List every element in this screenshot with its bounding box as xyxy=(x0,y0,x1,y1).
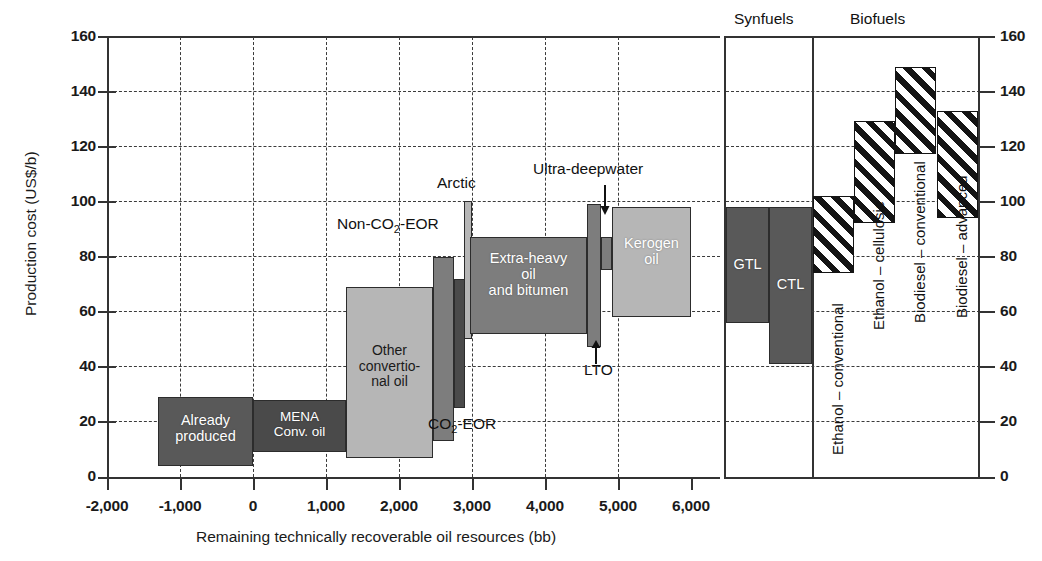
annotation-non-co2-eor-suffix: -EOR xyxy=(400,215,439,232)
gridline-h-right xyxy=(726,366,980,367)
bar-label-ctl: CTL xyxy=(769,276,812,292)
gridline-h xyxy=(109,91,720,92)
annotation-arctic: Arctic xyxy=(437,174,476,192)
x-tick-mark xyxy=(107,477,109,490)
y-axis-title: Production cost (US$/b) xyxy=(22,151,40,316)
y-tick-40: 40 xyxy=(44,357,96,375)
y-tick-mark-right xyxy=(978,311,995,313)
bar-lto[interactable] xyxy=(587,204,601,347)
y-tick-mark-right xyxy=(978,146,995,148)
x-tick-mark xyxy=(399,477,401,490)
bar-ethanol-conventional[interactable] xyxy=(813,196,854,273)
x-tick-mark xyxy=(618,477,620,490)
x-tick-mark xyxy=(691,477,693,490)
y-tick-100: 100 xyxy=(44,192,96,210)
gridline-h-right xyxy=(726,91,980,92)
annotation-non-co2-eor-text: Non-CO xyxy=(337,215,394,232)
y-tick-right-80: 80 xyxy=(1000,247,1042,265)
gridline-h xyxy=(109,201,720,202)
x-tick-mark xyxy=(326,477,328,490)
bar-biodiesel-conventional[interactable] xyxy=(895,67,936,154)
bar-non-co2-eor[interactable] xyxy=(433,257,454,441)
annotation-non-co2-eor: Non-CO2-EOR xyxy=(337,215,439,235)
y-tick-mark-right xyxy=(978,477,995,479)
y-tick-right-140: 140 xyxy=(1000,82,1042,100)
y-tick-20: 20 xyxy=(44,412,96,430)
y-tick-right-0: 0 xyxy=(1000,467,1042,485)
group-header-biofuels: Biofuels xyxy=(850,10,905,28)
bar-label-mena: MENA Conv. oil xyxy=(253,409,346,439)
bar-label-ethanol-cellulosic: Ethanol – cellulosic xyxy=(870,202,887,330)
x-tick-mark xyxy=(545,477,547,490)
y-tick-80: 80 xyxy=(44,247,96,265)
bar-label-other-conventional-oil: Other convertio- nal oil xyxy=(346,343,433,390)
annotation-co2-eor-suffix: -EOR xyxy=(457,415,496,432)
y-tick-mark-right xyxy=(978,91,995,93)
annotation-ultra-deepwater: Ultra-deepwater xyxy=(533,160,643,178)
gridline-h-right xyxy=(726,421,980,422)
y-tick-160: 160 xyxy=(44,27,96,45)
y-tick-120: 120 xyxy=(44,137,96,155)
bar-label-biodiesel-conventional: Biodiesel – conventional xyxy=(911,161,928,323)
bar-ultra-deepwater[interactable] xyxy=(601,237,612,270)
y-tick-mark-right xyxy=(978,201,995,203)
x-tick-mark xyxy=(472,477,474,490)
y-tick-mark-right xyxy=(978,366,995,368)
y-tick-right-40: 40 xyxy=(1000,357,1042,375)
annotation-co2-eor-text: CO xyxy=(428,415,451,432)
bar-label-already-produced: Already produced xyxy=(158,412,253,444)
y-tick-right-160: 160 xyxy=(1000,27,1042,45)
y-tick-60: 60 xyxy=(44,302,96,320)
x-tick-6000: 6,000 xyxy=(641,497,741,515)
bar-label-gtl: GTL xyxy=(726,256,769,272)
y-tick-mark-right xyxy=(978,256,995,258)
bar-label-kerogen-oil: Kerogen oil xyxy=(612,235,691,267)
x-tick-mark xyxy=(253,477,255,490)
bar-label-ethanol-conventional: Ethanol – conventional xyxy=(829,303,846,455)
group-header-synfuels: Synfuels xyxy=(734,10,793,28)
y-tick-right-100: 100 xyxy=(1000,192,1042,210)
x-axis-title: Remaining technically recoverable oil re… xyxy=(196,528,556,546)
chart-root: Production cost (US$/b) 160 140 120 100 … xyxy=(0,0,1042,561)
gridline-h xyxy=(109,146,720,147)
y-tick-right-60: 60 xyxy=(1000,302,1042,320)
y-tick-right-20: 20 xyxy=(1000,412,1042,430)
y-tick-mark-right xyxy=(978,36,995,38)
annotation-co2-eor: CO2-EOR xyxy=(428,415,496,435)
lto-arrow-icon xyxy=(589,340,603,364)
bar-label-extra-heavy-oil: Extra-heavy oil and bitumen xyxy=(470,250,587,299)
y-tick-mark-right xyxy=(978,421,995,423)
bar-label-biodiesel-advanced: Biodiesel – advanced xyxy=(953,175,970,318)
y-tick-0: 0 xyxy=(44,467,96,485)
y-tick-140: 140 xyxy=(44,82,96,100)
ultra-deepwater-arrow-icon xyxy=(598,185,612,215)
left-baseline xyxy=(107,477,720,479)
x-tick-mark xyxy=(180,477,182,490)
y-tick-mark xyxy=(98,36,116,38)
y-tick-right-120: 120 xyxy=(1000,137,1042,155)
